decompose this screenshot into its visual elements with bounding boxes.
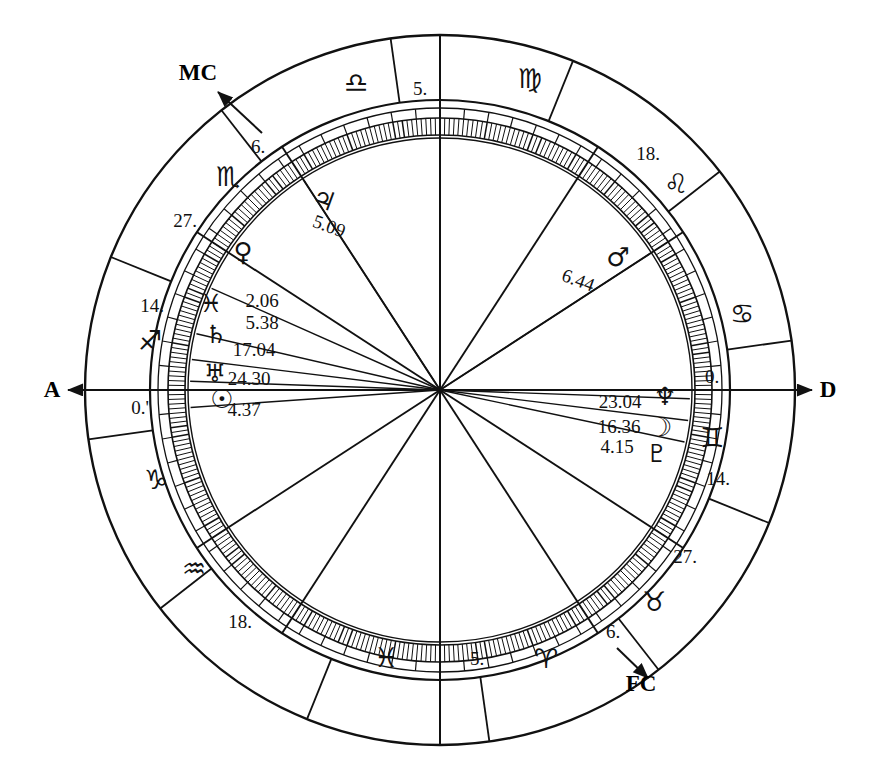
degree-tick-major bbox=[159, 414, 169, 415]
degree-tick bbox=[489, 123, 492, 140]
degree-tick bbox=[426, 645, 427, 662]
degree-tick bbox=[493, 639, 497, 656]
degree-tick bbox=[273, 176, 283, 189]
degree-tick bbox=[229, 219, 242, 230]
degree-tick-major bbox=[415, 661, 416, 671]
zodiac-glyph-libra: ♎ bbox=[344, 67, 368, 98]
degree-tick-major bbox=[648, 565, 656, 571]
degree-tick bbox=[168, 381, 185, 382]
degree-tick bbox=[170, 421, 187, 423]
degree-tick-major bbox=[184, 271, 193, 275]
degree-tick-major bbox=[224, 209, 232, 215]
degree-tick-major bbox=[278, 613, 284, 621]
degree-tick bbox=[623, 567, 635, 579]
degree-tick bbox=[597, 591, 607, 604]
degree-tick-major bbox=[321, 134, 325, 143]
degree-tick-major bbox=[533, 125, 536, 134]
degree-tick bbox=[258, 580, 269, 593]
zodiac-glyph-aquarius: ♒ bbox=[182, 553, 206, 584]
degree-tick bbox=[393, 122, 396, 139]
degree-tick bbox=[690, 338, 707, 341]
planet-glyph-saturn: ♄ bbox=[205, 320, 227, 349]
degree-tick bbox=[626, 204, 638, 216]
degree-tick bbox=[617, 573, 629, 585]
degree-tick-major bbox=[241, 582, 248, 589]
planet-degree-pluto: 4.15 bbox=[600, 436, 633, 457]
degree-tick-major bbox=[196, 526, 205, 531]
degree-tick-major bbox=[367, 653, 370, 663]
degree-tick bbox=[412, 644, 414, 661]
degree-tick bbox=[416, 644, 417, 661]
degree-tick bbox=[681, 473, 697, 479]
degree-tick bbox=[184, 297, 200, 303]
degree-tick bbox=[254, 576, 266, 588]
degree-tick bbox=[611, 580, 622, 593]
leader-line-mars bbox=[440, 254, 650, 390]
zodiac-glyph-leo: ♌ bbox=[664, 168, 688, 199]
degree-tick bbox=[510, 129, 515, 145]
degree-tick bbox=[226, 547, 239, 557]
degree-tick-major bbox=[209, 228, 217, 234]
zodiac-glyph-taurus: ♉ bbox=[642, 586, 666, 617]
degree-tick bbox=[523, 133, 529, 149]
degree-tick-major bbox=[708, 341, 718, 343]
degree-tick-major bbox=[711, 414, 721, 415]
degree-tick bbox=[685, 460, 701, 465]
degree-tick bbox=[638, 219, 651, 230]
degree-tick bbox=[173, 439, 190, 442]
degree-tick bbox=[644, 226, 658, 236]
degree-tick bbox=[232, 554, 245, 565]
degree-tick bbox=[276, 173, 286, 187]
degree-tick bbox=[241, 204, 253, 216]
degree-tick bbox=[251, 194, 263, 206]
degree-tick bbox=[220, 230, 234, 240]
degree-tick-major bbox=[615, 174, 621, 182]
degree-tick bbox=[620, 570, 632, 582]
degree-tick bbox=[632, 212, 645, 223]
degree-tick bbox=[600, 179, 611, 192]
degree-tick-major bbox=[367, 118, 370, 128]
degree-tick-major bbox=[703, 317, 713, 320]
degree-tick bbox=[172, 434, 189, 437]
degree-tick-major bbox=[464, 109, 465, 119]
degree-tick bbox=[684, 465, 700, 470]
cusp-aries-5: 5. bbox=[470, 648, 484, 669]
degree-tick bbox=[351, 133, 357, 149]
degree-tick bbox=[397, 121, 400, 138]
natal-chart-container: ♎♍♌♋♊♉♈♓♒♑♐♏ 5.18.0.14.27.6.5.18.0.'14.2… bbox=[0, 0, 880, 780]
degree-tick bbox=[635, 215, 648, 226]
degree-tick bbox=[421, 644, 422, 661]
degree-tick bbox=[519, 633, 524, 649]
degree-tick bbox=[695, 399, 712, 400]
degree-tick-major bbox=[510, 118, 513, 128]
degree-tick-major bbox=[510, 653, 513, 663]
degree-tick bbox=[646, 230, 660, 240]
zodiac-glyph-cancer: ♋ bbox=[730, 298, 754, 329]
degree-tick bbox=[617, 194, 629, 206]
degree-tick bbox=[431, 645, 432, 662]
degree-tick bbox=[623, 201, 635, 213]
degree-tick bbox=[683, 306, 699, 311]
degree-tick bbox=[407, 643, 409, 660]
zodiac-glyph-aries: ♈ bbox=[534, 643, 558, 674]
degree-tick bbox=[173, 338, 190, 341]
degree-tick bbox=[304, 611, 313, 626]
degree-tick bbox=[681, 301, 697, 307]
degree-tick bbox=[458, 119, 459, 136]
degree-tick bbox=[402, 121, 404, 138]
degree-tick bbox=[691, 343, 708, 346]
cusp-taurus-27: 27. bbox=[673, 546, 697, 567]
degree-tick bbox=[280, 170, 290, 184]
degree-tick bbox=[453, 645, 454, 662]
degree-tick bbox=[680, 297, 696, 303]
degree-tick bbox=[174, 333, 191, 337]
degree-tick bbox=[527, 134, 533, 150]
sign-divider-6 bbox=[88, 430, 152, 439]
degree-tick bbox=[426, 118, 427, 135]
degree-tick bbox=[223, 543, 237, 553]
degree-tick bbox=[661, 518, 676, 527]
degree-tick-major bbox=[278, 159, 284, 167]
degree-tick bbox=[169, 371, 186, 372]
degree-tick bbox=[217, 536, 231, 546]
degree-tick bbox=[449, 645, 450, 662]
